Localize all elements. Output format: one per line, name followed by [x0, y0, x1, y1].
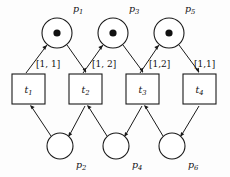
place-label-p6: p6 [188, 159, 199, 172]
place-p6[interactable]: p6 [159, 133, 199, 172]
arc-p2-t1 [30, 105, 51, 136]
arc-label-4: [1,1] [194, 59, 215, 69]
transition-t4[interactable]: t4 [183, 74, 216, 104]
arc-t3-p4 [124, 106, 142, 137]
token-dot-icon [165, 29, 172, 36]
token-dot-icon [109, 29, 116, 36]
token-dot-icon [53, 29, 60, 36]
place-p4[interactable]: p4 [103, 133, 142, 172]
arrow-head-icon [98, 45, 103, 50]
place-label-p3: p3 [129, 3, 139, 16]
place-p5[interactable]: p5 [154, 3, 195, 48]
arc-label-3: [1,2] [149, 59, 170, 69]
transition-t3[interactable]: t3 [126, 74, 159, 104]
place-p2[interactable]: p2 [47, 133, 86, 172]
transition-t1[interactable]: t1 [12, 74, 45, 104]
arrow-head-icon [144, 105, 149, 109]
arrow-head-icon [30, 105, 35, 109]
arrow-head-icon [154, 45, 159, 50]
place-label-p4: p4 [132, 159, 142, 172]
arc-label-1: [1, 1] [36, 59, 60, 69]
place-p3[interactable]: p3 [98, 3, 139, 48]
arc-p3-t3 [123, 45, 143, 73]
arc-t2-p2 [68, 106, 85, 137]
place-label-p2: p2 [76, 159, 86, 172]
arc-p4-t2 [87, 105, 107, 136]
place-p1[interactable]: p1 [42, 3, 83, 48]
petri-net-diagram: p1 p3 p5 t1 t2 [0, 0, 230, 177]
transition-t2[interactable]: t2 [69, 74, 102, 104]
arrow-head-icon [42, 45, 47, 50]
arrow-head-icon [87, 105, 92, 109]
arc-p1-t2 [67, 45, 86, 73]
arc-p6-t3 [144, 105, 163, 136]
arc-t4-p6 [180, 106, 199, 137]
arc-label-2: [1, 2] [92, 59, 116, 69]
place-label-p5: p5 [185, 3, 195, 16]
petri-net-canvas: p1 p3 p5 t1 t2 [0, 0, 230, 177]
place-label-p1: p1 [73, 3, 83, 16]
